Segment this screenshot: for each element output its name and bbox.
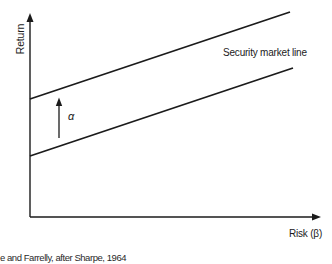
sml-label: Security market line (223, 47, 307, 58)
x-axis-arrowhead-icon (312, 214, 321, 221)
figure-caption: e and Farrelly, after Sharpe, 1964 (0, 251, 332, 264)
alpha-label: α (68, 110, 75, 122)
sml-figure: Return Security market line Risk (β) α (0, 0, 332, 264)
y-axis-label: Return (14, 23, 26, 54)
alpha-arrowhead-icon (56, 98, 62, 107)
x-axis-label: Risk (β) (289, 228, 322, 239)
y-axis-arrowhead-icon (27, 13, 34, 22)
